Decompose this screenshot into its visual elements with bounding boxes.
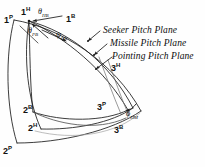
spherical-triangle-figure: 1P 1H 1B 2B 2H 2P 3H 3P 3B θHB θPB ψPB ϕ… — [0, 0, 205, 167]
vertex-label-3P: 3P — [97, 101, 106, 112]
angle-label-theta-hb: θHB — [38, 8, 49, 18]
vertex-label-1P: 1P — [4, 14, 13, 25]
vertex-label-2H: 2H — [28, 122, 37, 133]
vertex-label-3H: 3H — [111, 62, 120, 73]
node-dot-apex — [28, 20, 31, 23]
node-dot-pointing — [95, 68, 97, 70]
vertex-label-3B: 3B — [114, 124, 123, 135]
leader-missile — [94, 44, 107, 55]
leader-seeker — [88, 31, 100, 41]
plane-label-pointing: Pointing Pitch Plane — [112, 52, 194, 62]
plane-label-missile: Missile Pitch Plane — [110, 39, 186, 49]
angle-label-phi-hm: ϕHM — [126, 110, 138, 120]
plane-label-seeker: Seeker Pitch Plane — [103, 26, 177, 36]
angle-label-theta-pb: θPB — [28, 27, 38, 37]
node-dot-missile — [93, 54, 95, 56]
vertex-label-2B: 2B — [23, 104, 32, 115]
vertex-label-2P: 2P — [3, 145, 12, 156]
angle-label-psi-pb: ψPB — [56, 31, 67, 41]
vertex-label-1B: 1B — [66, 13, 75, 24]
arc-1P-2P — [8, 20, 17, 143]
node-dot-seeker — [87, 40, 89, 42]
vertex-label-1H: 1H — [21, 6, 30, 17]
